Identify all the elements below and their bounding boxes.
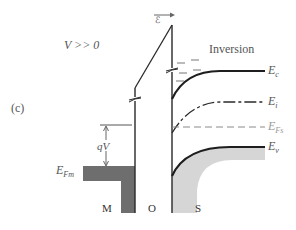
label-efm: EFm	[56, 163, 74, 179]
field-arrowhead-icon	[170, 13, 175, 18]
qv-down-arrow-icon	[104, 151, 109, 166]
label-ei: Ei	[268, 94, 278, 110]
region-label-metal: M	[102, 202, 112, 214]
band-diagram-graphic	[0, 0, 296, 230]
qv-label: qV	[97, 140, 109, 152]
field-symbol: ℰ	[155, 15, 160, 25]
inversion-electrons	[176, 60, 201, 81]
label-efs: EFs	[268, 119, 283, 135]
label-ec: Ec	[268, 63, 279, 79]
mos-band-diagram: (c) V >> 0 ℰ Inversion qV Ec Ei EFs Ev E…	[0, 0, 296, 230]
region-label-semiconductor: S	[195, 202, 201, 214]
conduction-band-edge	[172, 71, 265, 99]
regime-label: Inversion	[209, 42, 254, 57]
oxide-conduction-band	[135, 25, 172, 88]
label-ev: Ev	[268, 139, 279, 155]
bias-condition-label: V >> 0	[64, 38, 99, 53]
panel-label: (c)	[11, 101, 24, 116]
valence-filled-states	[172, 147, 265, 213]
region-label-oxide: O	[148, 202, 156, 214]
qv-up-arrow-icon	[104, 126, 109, 140]
intrinsic-level	[172, 102, 265, 133]
